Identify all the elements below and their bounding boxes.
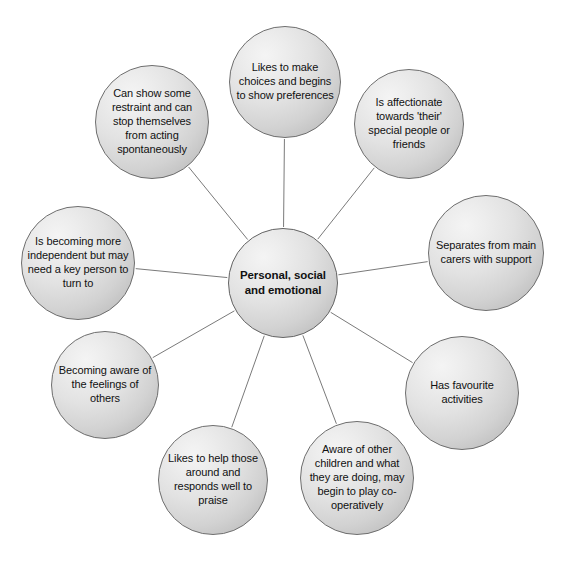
node-label: Is becoming more independent but may nee… (22, 235, 134, 291)
connector-aware-children (303, 335, 337, 423)
connector-choices (284, 139, 285, 227)
node-label: Likes to make choices and begins to show… (230, 61, 340, 103)
connector-feelings-others (153, 311, 235, 358)
connector-independent (136, 269, 228, 278)
node-separates: Separates from main carers with support (428, 195, 544, 311)
node-label: Personal, social and emotional (229, 268, 337, 299)
node-choices: Likes to make choices and begins to show… (229, 26, 341, 138)
node-affectionate: Is affectionate towards 'their' special … (354, 69, 464, 179)
node-feelings-others: Becoming aware of the feelings of others (51, 331, 159, 439)
node-label: Can show some restraint and can stop the… (96, 87, 208, 157)
connector-affectionate (318, 168, 374, 239)
connector-favourite (331, 312, 413, 362)
mind-map-diagram: Personal, social and emotionalLikes to m… (0, 0, 567, 569)
node-favourite: Has favourite activities (405, 336, 519, 450)
connector-separates (338, 262, 427, 275)
node-label: Is affectionate towards 'their' special … (355, 96, 463, 152)
center-node-center: Personal, social and emotional (228, 228, 338, 338)
node-restraint: Can show some restraint and can stop the… (95, 65, 209, 179)
node-aware-children: Aware of other children and what they ar… (300, 421, 414, 535)
connector-restraint (189, 167, 248, 240)
node-label: Aware of other children and what they ar… (301, 443, 413, 513)
node-label: Likes to help those around and responds … (159, 452, 267, 508)
connector-likes-to-help (232, 336, 265, 427)
node-likes-to-help: Likes to help those around and responds … (158, 425, 268, 535)
node-label: Has favourite activities (406, 379, 518, 407)
node-label: Becoming aware of the feelings of others (52, 364, 158, 406)
node-label: Separates from main carers with support (429, 239, 543, 267)
node-independent: Is becoming more independent but may nee… (21, 206, 135, 320)
